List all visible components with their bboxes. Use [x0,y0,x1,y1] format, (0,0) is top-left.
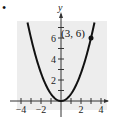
svg-text:−2: −2 [36,104,47,115]
svg-text:2: 2 [51,75,56,86]
point-label: (3, 6) [61,27,85,40]
svg-text:4: 4 [99,104,104,115]
svg-text:2: 2 [79,104,84,115]
svg-text:6: 6 [51,33,56,44]
svg-text:4: 4 [51,54,56,65]
y-axis-label: y [57,2,63,13]
parabola-chart: −4−224 246 y (3, 6) [0,0,116,125]
point-marker [89,36,94,41]
svg-text:−4: −4 [16,104,27,115]
y-tick-labels: 246 [51,33,56,86]
